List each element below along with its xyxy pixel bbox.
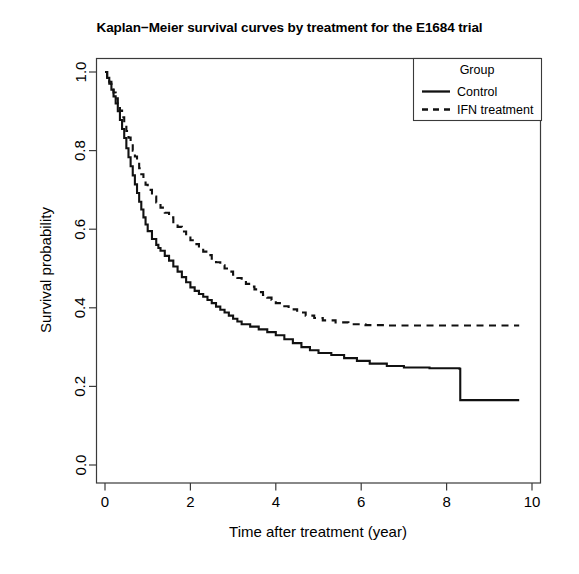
y-tick-label: 0.2 — [72, 376, 89, 397]
legend-title: Group — [460, 63, 495, 77]
curve-control — [105, 72, 519, 400]
legend-label-ifn: IFN treatment — [457, 103, 534, 117]
legend-label-control: Control — [457, 85, 497, 99]
x-tick-label: 8 — [442, 493, 450, 510]
x-tick-label: 2 — [186, 493, 194, 510]
survival-plot: 1.0 0.8 0.6 0.4 0.2 0.0 Survival probabi… — [0, 0, 579, 574]
x-tick-label: 6 — [357, 493, 365, 510]
x-axis-ticks — [105, 483, 532, 491]
x-tick-label: 0 — [101, 493, 109, 510]
y-tick-label: 0.4 — [72, 297, 89, 318]
y-axis-title: Survival probability — [37, 207, 54, 333]
x-tick-label: 4 — [272, 493, 280, 510]
x-axis-tick-labels: 0 2 4 6 8 10 — [101, 493, 541, 510]
x-axis-title: Time after treatment (year) — [229, 523, 407, 540]
legend: Group Control IFN treatment — [414, 59, 542, 121]
x-tick-label: 10 — [524, 493, 541, 510]
chart-page: Kaplan−Meier survival curves by treatmen… — [0, 0, 579, 574]
y-axis-ticks — [89, 72, 97, 465]
y-tick-label: 0.6 — [72, 219, 89, 240]
y-tick-label: 0.0 — [72, 455, 89, 476]
y-tick-label: 0.8 — [72, 140, 89, 161]
plot-frame — [97, 59, 541, 484]
y-tick-label: 1.0 — [72, 62, 89, 83]
y-axis-tick-labels: 1.0 0.8 0.6 0.4 0.2 0.0 — [72, 62, 89, 476]
